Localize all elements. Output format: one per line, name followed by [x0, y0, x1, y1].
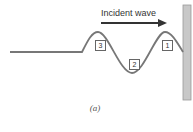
incident-wave-label: Incident wave [101, 8, 156, 18]
wall [183, 5, 191, 100]
incident-arrow-head [158, 19, 167, 27]
figure-caption: (a) [84, 103, 106, 113]
point-label-1: 1 [162, 40, 173, 51]
wave-string [10, 32, 183, 73]
point-label-2: 2 [129, 59, 140, 70]
point-label-3: 3 [95, 40, 106, 51]
